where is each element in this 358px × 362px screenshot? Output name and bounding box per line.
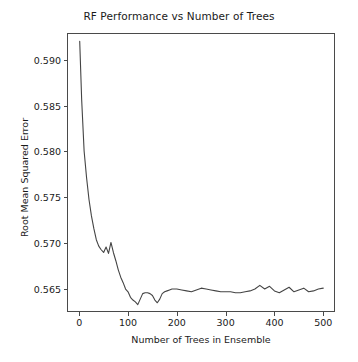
x-tick-mark [323,312,324,316]
x-tick-label: 200 [157,317,197,328]
x-tick-mark [177,312,178,316]
x-tick-mark [128,312,129,316]
rmse-line [80,41,324,304]
chart-figure: RF Performance vs Number of Trees 0.5650… [0,0,358,362]
x-tick-label: 400 [254,317,294,328]
chart-title: RF Performance vs Number of Trees [0,10,358,22]
x-axis-label: Number of Trees in Ensemble [67,334,335,345]
y-tick-label: 0.565 [15,283,61,294]
x-tick-mark [226,312,227,316]
x-tick-label: 300 [206,317,246,328]
y-tick-label: 0.590 [15,55,61,66]
x-tick-label: 100 [108,317,148,328]
y-axis-label: Root Mean Squared Error [19,98,30,258]
x-tick-label: 0 [59,317,99,328]
x-tick-label: 500 [303,317,343,328]
line-series-svg [68,34,334,311]
x-tick-mark [79,312,80,316]
plot-area [67,33,335,312]
x-tick-mark [274,312,275,316]
